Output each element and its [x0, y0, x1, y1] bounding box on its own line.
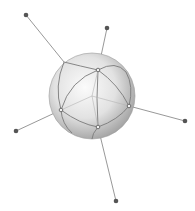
- surface-node: [96, 125, 100, 129]
- endpoint-node: [114, 199, 119, 204]
- endpoint-node: [105, 26, 110, 31]
- endpoint-node: [24, 13, 29, 18]
- endpoint-node: [14, 129, 19, 134]
- spoke-line: [26, 15, 64, 62]
- sphere-diagram: [0, 0, 195, 211]
- surface-node: [96, 68, 100, 72]
- surface-node: [59, 108, 63, 112]
- surface-node: [127, 104, 131, 108]
- spoke-line: [129, 106, 185, 121]
- endpoint-node: [183, 119, 188, 124]
